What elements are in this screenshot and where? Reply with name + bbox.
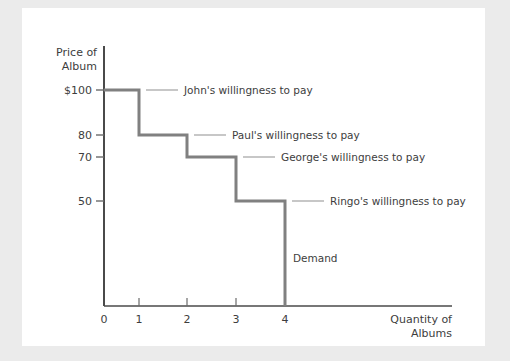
y-axis-title-line2: Album	[62, 60, 97, 73]
y-tick-label-100: $100	[64, 84, 92, 97]
annotation-john: John's willingness to pay	[183, 84, 313, 96]
chart-svg: $100 80 70 50 0 1 2 3 4 Price of Album Q…	[0, 0, 510, 361]
annotation-paul: Paul's willingness to pay	[232, 129, 360, 141]
y-tick-label-80: 80	[78, 129, 92, 142]
annotation-demand: Demand	[293, 252, 338, 264]
annotation-george: George's willingness to pay	[281, 151, 425, 163]
y-axis-title-line1: Price of	[56, 46, 98, 59]
x-tick-label-0: 0	[101, 313, 108, 326]
y-tick-label-70: 70	[78, 151, 92, 164]
x-tick-label-4: 4	[282, 313, 289, 326]
demand-curve-chart: $100 80 70 50 0 1 2 3 4 Price of Album Q…	[0, 0, 510, 361]
x-tick-label-1: 1	[136, 313, 143, 326]
x-axis-title-line1: Quantity of	[390, 313, 453, 326]
x-axis-title-line2: Albums	[411, 327, 452, 340]
demand-step-curve	[104, 90, 285, 306]
annotation-ringo: Ringo's willingness to pay	[330, 195, 466, 207]
figure-root: $100 80 70 50 0 1 2 3 4 Price of Album Q…	[0, 0, 510, 361]
x-tick-label-2: 2	[184, 313, 191, 326]
x-tick-label-3: 3	[233, 313, 240, 326]
y-tick-label-50: 50	[78, 195, 92, 208]
